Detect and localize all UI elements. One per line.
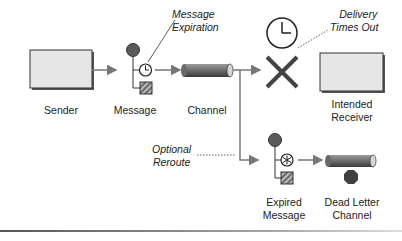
channel-pipe-icon [181, 64, 233, 77]
bottom-divider [0, 230, 402, 232]
receiver-label-line2: Receiver [318, 111, 386, 124]
optional-reroute-note-line1: Optional [152, 143, 191, 156]
timeout-clock-icon [267, 18, 297, 48]
dead-letter-stop-icon [344, 170, 358, 184]
optional-reroute-note-line2: Reroute [152, 156, 191, 169]
message-expiration-note: Message Expiration [172, 8, 219, 34]
dlq-label-line1: Dead Letter [318, 196, 386, 209]
intended-receiver-box [320, 53, 385, 93]
sender-box [30, 50, 94, 90]
times-out-pointer [298, 30, 328, 48]
receiver-label: Intended Receiver [318, 98, 386, 124]
reroute-arrow [240, 70, 258, 160]
expired-message-label: Expired Message [258, 196, 310, 222]
message-body-icon [140, 82, 152, 94]
optional-reroute-note: Optional Reroute [152, 143, 191, 169]
message-expiration-note-line1: Message [172, 8, 219, 21]
message-expiration-note-line2: Expiration [172, 21, 219, 34]
delivery-times-out-note: Delivery Times Out [330, 8, 378, 34]
message-label: Message [112, 104, 158, 117]
dead-letter-channel-label: Dead Letter Channel [318, 196, 386, 222]
dlq-label-line2: Channel [318, 209, 386, 222]
delivery-failed-cross-icon [267, 57, 297, 87]
delivery-times-out-note-line1: Delivery [330, 8, 378, 21]
dead-letter-channel-pipe-icon [325, 155, 376, 167]
message-expiration-pointer [148, 20, 175, 62]
expiration-clock-icon [140, 64, 152, 76]
receiver-label-line1: Intended [318, 98, 386, 111]
expired-message-label-line2: Message [258, 209, 310, 222]
channel-label: Channel [184, 104, 230, 117]
expired-message-body-icon [281, 172, 293, 184]
delivery-times-out-note-line2: Times Out [330, 21, 378, 34]
expired-message-label-line1: Expired [258, 196, 310, 209]
expired-message-icon [269, 134, 294, 185]
message-icon [127, 44, 153, 95]
expired-star-icon [281, 154, 293, 166]
sender-label: Sender [38, 104, 84, 117]
